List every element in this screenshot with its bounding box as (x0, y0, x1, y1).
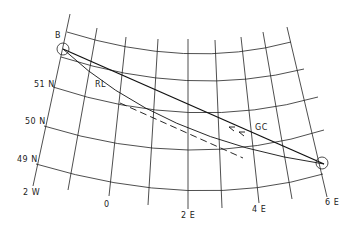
meridian-4e (241, 37, 259, 203)
meridian-1w (68, 28, 97, 190)
parallel-49n (36, 164, 323, 191)
lat-label-49n: 49 N (17, 155, 38, 164)
lon-label-0: 0 (104, 200, 110, 209)
meridian-2w (33, 14, 70, 186)
parallel-51n (53, 87, 318, 113)
meridian-1e (148, 39, 158, 205)
lon-label-2e: 2 E (181, 211, 195, 220)
parallel-50n (44, 126, 324, 150)
lon-label-6e: 6 E (325, 198, 339, 207)
meridian-5e (263, 32, 292, 199)
start-point-label: B (55, 31, 61, 40)
arrow-icon (229, 127, 235, 131)
lon-label-4e: 4 E (252, 205, 266, 214)
meridian-0 (109, 37, 126, 196)
lat-label-50n: 50 N (25, 117, 46, 126)
map-canvas (0, 0, 353, 230)
graticule (33, 14, 327, 209)
great-circle-label: GC (255, 123, 268, 132)
rhumb-line-label: RL (95, 80, 106, 89)
lat-label-51n: 51 N (34, 80, 55, 89)
arrow-icon (239, 132, 245, 136)
great-circle-route (63, 49, 324, 164)
meridian-6e (287, 27, 327, 197)
parallel-53n (67, 32, 291, 54)
lon-label-2w: 2 W (23, 188, 40, 197)
routes (63, 49, 324, 164)
meridian-3e (215, 40, 222, 208)
